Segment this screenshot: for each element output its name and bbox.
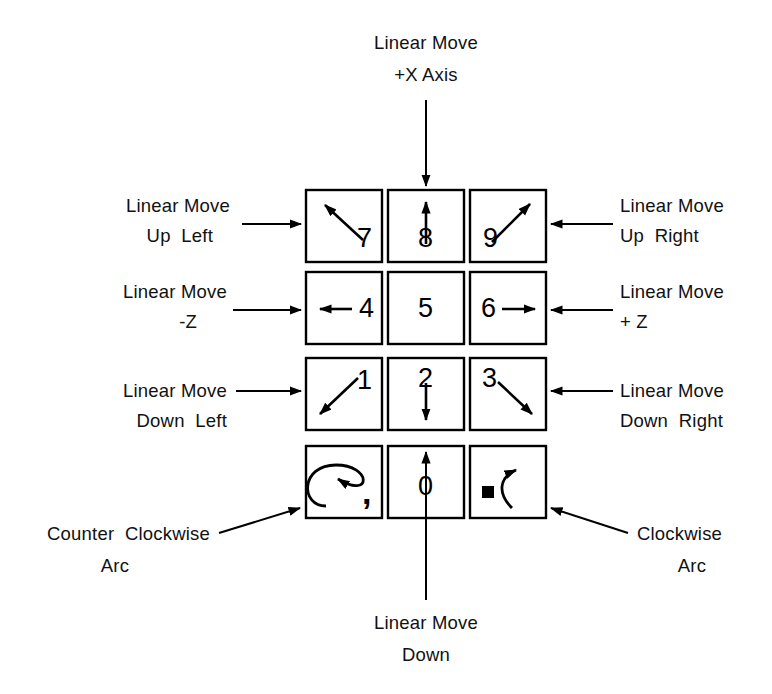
key-label-6: 6 — [481, 295, 496, 322]
diagram-canvas: 7 8 9 4 5 6 1 2 3 , 0 Linear Move +X Axi… — [0, 0, 772, 694]
connector-bottom-right — [551, 508, 628, 533]
annotation-right-up-line1: Linear Move — [620, 193, 772, 218]
annotation-left-up-line1: Linear Move — [75, 193, 230, 218]
key-label-7: 7 — [357, 225, 372, 252]
annotation-bottom-left-line2: Arc — [20, 553, 210, 578]
annotation-right-down-line1: Linear Move — [620, 378, 772, 403]
key-comma-ccw-arc-icon — [308, 465, 364, 506]
annotation-bottom-center-line1: Linear Move — [326, 610, 526, 635]
annotation-top-line1: Linear Move — [326, 30, 526, 55]
annotation-bottom-right-line2: Arc — [637, 553, 747, 578]
key-label-3: 3 — [482, 365, 497, 392]
annotation-left-down-line2: Down Left — [72, 408, 227, 433]
key-label-2: 2 — [418, 365, 433, 392]
annotation-bottom-right-line1: Clockwise — [637, 521, 772, 546]
key-box-period[interactable] — [470, 446, 546, 518]
keypad-diagram-svg — [0, 0, 772, 694]
annotation-left-mid-line2: -Z — [72, 309, 197, 334]
annotation-right-mid-line1: Linear Move — [620, 279, 772, 304]
annotation-left-down-line1: Linear Move — [72, 378, 227, 403]
key-3-arrow-icon — [498, 382, 532, 414]
annotation-bottom-left-line1: Counter Clockwise — [20, 521, 210, 546]
annotation-bottom-center-line2: Down — [326, 642, 526, 667]
key-label-4: 4 — [359, 295, 374, 322]
annotation-left-mid-line1: Linear Move — [72, 279, 227, 304]
key-period-dot-icon — [482, 486, 494, 498]
key-label-0: 0 — [418, 473, 433, 500]
key-label-1: 1 — [357, 367, 372, 394]
annotation-right-mid-line2: + Z — [620, 309, 772, 334]
key-label-8: 8 — [418, 225, 433, 252]
annotation-left-up-line2: Up Left — [75, 223, 213, 248]
annotation-right-down-line2: Down Right — [620, 408, 772, 433]
key-label-9: 9 — [483, 225, 498, 252]
annotation-right-up-line2: Up Right — [620, 223, 772, 248]
key-label-comma: , — [362, 479, 371, 506]
key-1-arrow-icon — [320, 378, 358, 414]
key-label-5: 5 — [418, 295, 433, 322]
connector-bottom-left — [219, 508, 300, 533]
key-period-cw-arc-icon — [502, 470, 516, 508]
annotation-top-line2: +X Axis — [326, 62, 526, 87]
